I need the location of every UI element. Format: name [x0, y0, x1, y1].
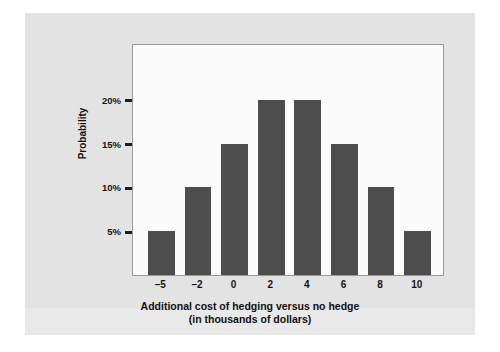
x-axis-tick-label: –5	[140, 279, 180, 290]
y-axis-title: Probability	[77, 74, 88, 194]
x-axis-tick-label: 0	[214, 279, 254, 290]
bar	[404, 231, 431, 275]
bar	[294, 100, 321, 275]
y-axis-tick-label: 5%	[77, 227, 121, 237]
y-axis-tick-label: 15%	[77, 140, 121, 150]
y-axis-tick-label: 10%	[77, 183, 121, 193]
x-axis-tick-label: 6	[323, 279, 363, 290]
bar	[185, 187, 212, 275]
x-axis-tick-label: 2	[250, 279, 290, 290]
x-axis-tick-label: 4	[287, 279, 327, 290]
bar	[221, 144, 248, 275]
x-axis-title-line2: (in thousands of dollars)	[25, 313, 475, 326]
x-axis-tick-label: 8	[360, 279, 400, 290]
bar	[148, 231, 175, 275]
bar	[258, 100, 285, 275]
figure-panel: Probability 5%10%15%20% –5–20246810 Addi…	[25, 13, 475, 335]
y-axis-tick-label: 20%	[77, 96, 121, 106]
bar	[368, 187, 395, 275]
plot-area	[132, 44, 444, 276]
x-axis-title: Additional cost of hedging versus no hed…	[25, 300, 475, 326]
bar	[331, 144, 358, 275]
bars-layer	[133, 45, 443, 275]
x-axis-tick-label: –2	[177, 279, 217, 290]
x-axis-title-line1: Additional cost of hedging versus no hed…	[25, 300, 475, 313]
x-axis-tick-label: 10	[397, 279, 437, 290]
